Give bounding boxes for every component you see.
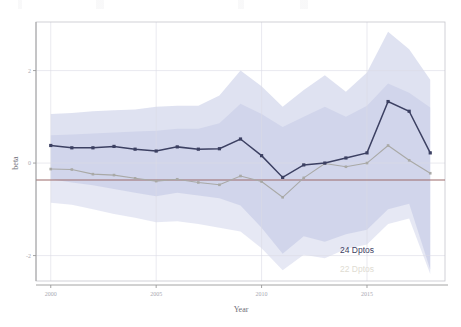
svg-text:-2: -2 bbox=[26, 253, 31, 259]
svg-text:2010: 2010 bbox=[256, 291, 268, 297]
svg-text:0: 0 bbox=[28, 160, 31, 166]
top-edge-artifact bbox=[0, 0, 461, 9]
x-axis-ticks: 2000200520102015 bbox=[45, 285, 373, 297]
svg-text:2: 2 bbox=[28, 68, 31, 74]
svg-text:2005: 2005 bbox=[150, 291, 162, 297]
beta-timeseries-chart: 20-2 2000200520102015 beta Year 24 Dptos… bbox=[0, 0, 461, 327]
svg-text:2000: 2000 bbox=[45, 291, 57, 297]
x-axis-title: Year bbox=[234, 305, 249, 314]
confidence-bands bbox=[51, 32, 430, 274]
legend-label-24dptos: 24 Dptos bbox=[340, 245, 374, 255]
svg-text:2015: 2015 bbox=[361, 291, 373, 297]
y-axis-title: beta bbox=[11, 156, 20, 170]
legend-label-22dptos: 22 Dptos bbox=[340, 264, 374, 274]
chart-container: 20-2 2000200520102015 beta Year 24 Dptos… bbox=[0, 0, 461, 327]
y-axis-ticks: 20-2 bbox=[26, 68, 36, 259]
